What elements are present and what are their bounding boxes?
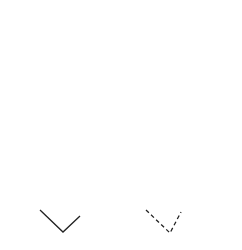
legend-section-symbol	[40, 210, 80, 232]
legend	[40, 210, 181, 233]
legend-sector-symbol	[146, 210, 181, 233]
diagram-canvas	[0, 0, 242, 250]
